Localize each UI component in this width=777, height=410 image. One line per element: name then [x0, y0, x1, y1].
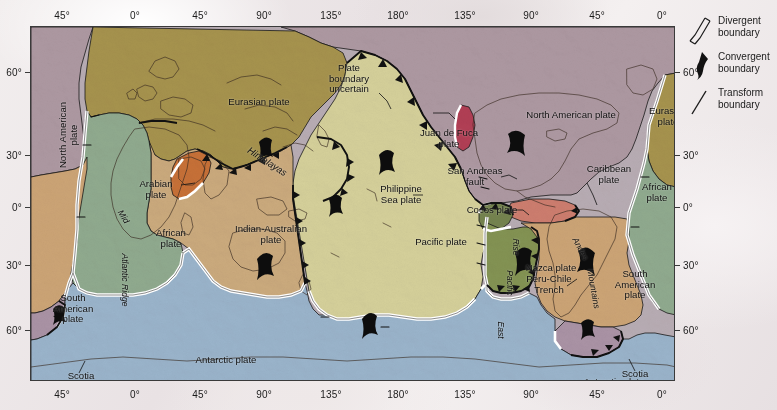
right-axis-tick-0 — [675, 72, 680, 73]
bottom-axis-label-5: 180° — [387, 389, 408, 400]
bottom-axis-label-0: 45° — [54, 389, 70, 400]
right-axis-label-1: 30° — [683, 150, 699, 161]
divergent-boundary-symbol — [686, 14, 714, 46]
top-axis-label-8: 45° — [589, 10, 605, 21]
legend-item-divergent[interactable]: Divergent boundary — [686, 14, 774, 50]
right-axis-label-4: 60° — [683, 325, 699, 336]
right-axis-tick-1 — [675, 155, 680, 156]
left-axis-label-2: 0° — [0, 202, 22, 213]
top-axis-label-0: 45° — [54, 10, 70, 21]
bottom-axis-label-8: 45° — [589, 389, 605, 400]
convergent-boundary-symbol — [686, 50, 714, 82]
legend-label-convergent: Convergent boundary — [718, 51, 770, 74]
legend-item-transform[interactable]: Transform boundary — [686, 86, 774, 122]
bottom-axis-label-9: 0° — [657, 389, 667, 400]
bottom-axis-label-3: 90° — [256, 389, 272, 400]
legend-label-divergent: Divergent boundary — [718, 15, 761, 38]
top-axis-label-6: 135° — [454, 10, 475, 21]
right-axis-label-2: 0° — [683, 202, 693, 213]
top-axis-label-1: 0° — [130, 10, 140, 21]
right-axis-tick-2 — [675, 207, 680, 208]
map-vector-layer — [31, 27, 675, 381]
left-axis-label-3: 30° — [0, 260, 22, 271]
transform-boundary-symbol — [686, 86, 714, 118]
plate-nazca[interactable] — [485, 223, 539, 293]
bottom-axis-label-7: 90° — [523, 389, 539, 400]
bottom-axis-label-6: 135° — [454, 389, 475, 400]
right-axis-label-3: 30° — [683, 260, 699, 271]
bottom-axis-label-2: 45° — [192, 389, 208, 400]
right-axis-tick-3 — [675, 265, 680, 266]
right-axis-tick-4 — [675, 330, 680, 331]
top-axis-label-3: 90° — [256, 10, 272, 21]
bottom-axis-label-4: 135° — [320, 389, 341, 400]
left-axis-label-1: 30° — [0, 150, 22, 161]
top-axis-label-4: 135° — [320, 10, 341, 21]
world-map-canvas[interactable]: Eurasian plate Plate boundary uncertain … — [30, 26, 675, 381]
top-axis-label-9: 0° — [657, 10, 667, 21]
legend-label-transform: Transform boundary — [718, 87, 763, 110]
tectonic-plate-map-figure: 45° 0° 45° 90° 135° 180° 135° 90° 45° 0°… — [0, 0, 777, 410]
bottom-axis-label-1: 0° — [130, 389, 140, 400]
left-axis-label-4: 60° — [0, 325, 22, 336]
top-axis-label-7: 90° — [523, 10, 539, 21]
top-axis-label-5: 180° — [387, 10, 408, 21]
map-legend: Divergent boundary Convergent boundary T… — [686, 14, 774, 122]
legend-item-convergent[interactable]: Convergent boundary — [686, 50, 774, 86]
left-axis-label-0: 60° — [0, 67, 22, 78]
top-axis-label-2: 45° — [192, 10, 208, 21]
